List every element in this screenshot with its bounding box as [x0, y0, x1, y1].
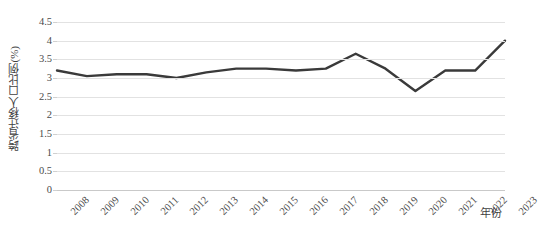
- x-axis-title: 年份: [480, 208, 502, 219]
- x-axis-tick-label: 2015: [278, 195, 300, 217]
- y-axis-tick: [53, 115, 57, 116]
- y-axis-title: 跨省迁移人口比例(%): [2, 0, 26, 196]
- y-axis-tick: [53, 59, 57, 60]
- x-axis-tick-label: 2023: [517, 195, 539, 217]
- x-axis-tick-label: 2013: [218, 195, 240, 217]
- y-axis-tick: [53, 97, 57, 98]
- line-series-svg: [57, 22, 505, 190]
- x-axis-line: [57, 190, 505, 191]
- gridline: [57, 22, 505, 23]
- x-axis-tick-label: 2014: [248, 195, 270, 217]
- y-axis-tick-label: 2.5: [26, 91, 52, 102]
- y-axis-tick: [53, 78, 57, 79]
- gridline: [57, 41, 505, 42]
- x-axis-tick-label: 2012: [189, 195, 211, 217]
- y-axis-tick-label: 1: [26, 147, 52, 158]
- line-series-path: [57, 41, 505, 91]
- gridline: [57, 153, 505, 154]
- y-axis-tick-label: 4.5: [26, 17, 52, 28]
- y-axis-tick-label: 0.5: [26, 166, 52, 177]
- x-axis-tick-labels: 2008200920102011201220132014201520162017…: [57, 192, 505, 243]
- x-axis-tick-label: 2021: [457, 195, 479, 217]
- y-axis-tick-label: 3: [26, 73, 52, 84]
- y-axis-tick: [53, 153, 57, 154]
- y-axis-tick: [53, 190, 57, 191]
- plot-area: [57, 22, 505, 190]
- x-axis-tick-label: 2011: [159, 195, 181, 217]
- y-axis-tick-label: 0: [26, 185, 52, 196]
- y-axis-tick-labels: 00.511.522.533.544.5: [26, 0, 52, 243]
- x-axis-tick-label: 2010: [129, 195, 151, 217]
- y-axis-title-text: 跨省迁移人口比例(%): [6, 46, 22, 151]
- gridline: [57, 134, 505, 135]
- y-axis-tick-label: 3.5: [26, 54, 52, 65]
- x-axis-tick-label: 2019: [398, 195, 420, 217]
- x-axis-tick-label: 2016: [308, 195, 330, 217]
- x-axis-tick-label: 2017: [338, 195, 360, 217]
- y-axis-tick: [53, 41, 57, 42]
- y-axis-tick-label: 2: [26, 110, 52, 121]
- y-axis-tick: [53, 171, 57, 172]
- gridline: [57, 59, 505, 60]
- x-axis-tick-label: 2009: [99, 195, 121, 217]
- y-axis-tick: [53, 22, 57, 23]
- x-axis-tick-label: 2008: [69, 195, 91, 217]
- gridline: [57, 115, 505, 116]
- x-axis-tick-label: 2018: [368, 195, 390, 217]
- x-axis-tick-label: 2020: [428, 195, 450, 217]
- y-axis-tick: [53, 134, 57, 135]
- gridline: [57, 171, 505, 172]
- y-axis-tick-label: 4: [26, 35, 52, 46]
- y-axis-tick-label: 1.5: [26, 129, 52, 140]
- gridline: [57, 97, 505, 98]
- gridline: [57, 78, 505, 79]
